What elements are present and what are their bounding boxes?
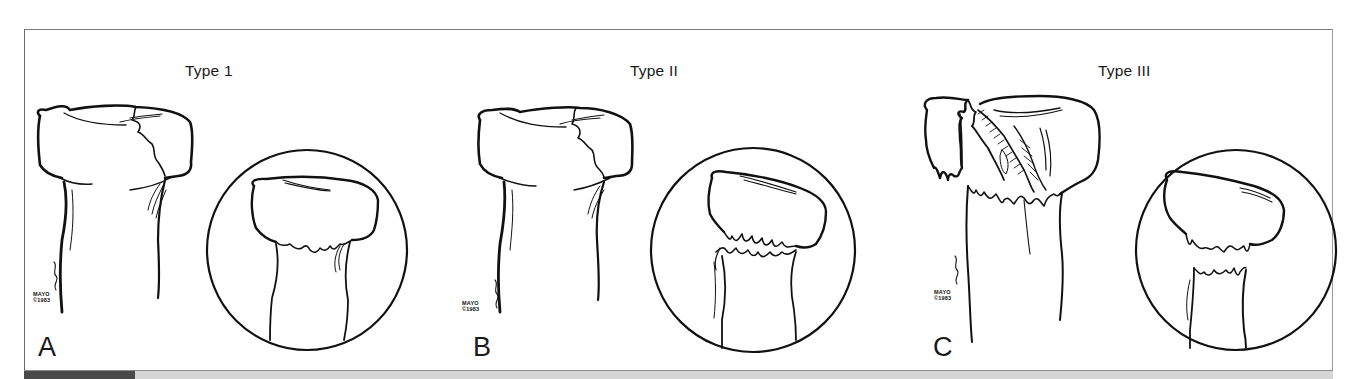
fracture-illustrations <box>0 0 1355 379</box>
panel-b-magnified-view <box>651 148 855 352</box>
artist-signature-marks <box>54 256 958 308</box>
panel-b-bone-illustration <box>479 107 633 312</box>
panel-c-magnified-view <box>1136 150 1336 350</box>
panel-a-magnified-view <box>207 150 407 350</box>
panel-c-bone-illustration <box>925 96 1100 342</box>
panel-a-bone-illustration <box>38 106 192 312</box>
